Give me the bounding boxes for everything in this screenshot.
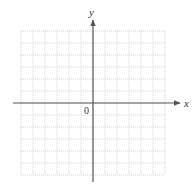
x-axis-label: x [183,97,189,109]
y-axis-label: y [88,6,94,18]
origin-label: 0 [84,105,89,116]
coordinate-plane: x y 0 [0,0,196,189]
